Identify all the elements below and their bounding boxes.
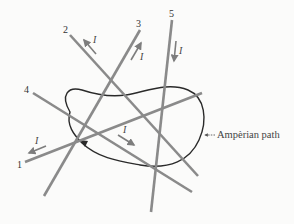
amperian-path-label: Ampèrian path: [217, 129, 280, 140]
current-arrow-1-icon: [29, 146, 46, 153]
current-label-2: I: [92, 34, 97, 45]
wire-label-1: 1: [17, 159, 22, 170]
amperian-path-diagram: 1 2 3 4 5 I I I I I Ampèrian path: [0, 0, 294, 224]
current-arrow-5-icon: [174, 41, 176, 61]
wire-label-4: 4: [24, 84, 29, 95]
wire-label-3: 3: [136, 18, 141, 29]
wire-5: [151, 20, 172, 212]
current-label-1: I: [34, 135, 39, 146]
wire-label-2: 2: [63, 24, 68, 35]
wire-label-5: 5: [169, 8, 174, 19]
current-arrow-4-icon: [118, 135, 134, 145]
current-label-3: I: [139, 51, 144, 62]
wire-3: [44, 30, 140, 196]
current-label-4: I: [122, 124, 127, 135]
current-label-5: I: [178, 45, 183, 56]
